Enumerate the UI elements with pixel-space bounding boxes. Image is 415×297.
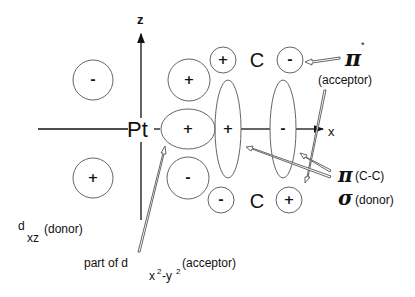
pt-atom-label: Pt — [127, 117, 148, 142]
sigma-symbol: σ — [338, 186, 353, 210]
z-axis-label: z — [137, 12, 144, 27]
dx2y2-sup2: 2 — [176, 267, 181, 276]
pt-lobe-lower-right-sign: - — [185, 170, 190, 185]
pistar-lobe-bottom-right-sign: + — [284, 192, 295, 207]
pistar-lobe-bottom-left-sign: - — [218, 192, 223, 207]
x-axis-label: x — [328, 124, 335, 139]
pi-star-role: (acceptor) — [318, 73, 372, 87]
dxz-role: (donor) — [44, 222, 83, 236]
pistar-lobe-top-right-sign: - — [287, 52, 292, 67]
pistar-lobe-top-left-sign: + — [218, 52, 229, 67]
arrow-dx2y2 — [138, 146, 166, 252]
dx2y2-dash-y: -y — [162, 269, 172, 283]
sigma-label: (donor) — [355, 193, 394, 207]
dxz-lobe-lower-left-sign: + — [88, 170, 99, 185]
dx2y2-prefix: part of d — [84, 256, 128, 270]
carbon-label-bottom: C — [250, 190, 264, 212]
cc-lobe-left-sign: + — [223, 121, 234, 136]
dxz-symbol: d — [18, 219, 25, 233]
orbital-diagram: z x Pt - + + + - + - + - - + C C π * ( — [0, 0, 415, 297]
carbon-label-top: C — [250, 49, 264, 71]
dxz-subscript: xz — [27, 231, 39, 245]
dx2y2-sub-x: x — [149, 269, 155, 283]
cc-lobe-right-sign: - — [280, 121, 285, 136]
pi-star-superscript: * — [361, 40, 365, 50]
pi-star-symbol: π — [344, 45, 362, 71]
dx2y2-role: (acceptor) — [182, 256, 236, 270]
dxz-lobe-upper-left-sign: - — [90, 72, 95, 87]
pi-cc-symbol: π — [337, 163, 353, 187]
pt-lobe-right-sign: + — [183, 121, 194, 136]
pt-lobe-upper-right-sign: + — [184, 72, 195, 87]
pi-cc-label: (C-C) — [355, 169, 384, 183]
arrow-pi-star — [305, 57, 340, 65]
